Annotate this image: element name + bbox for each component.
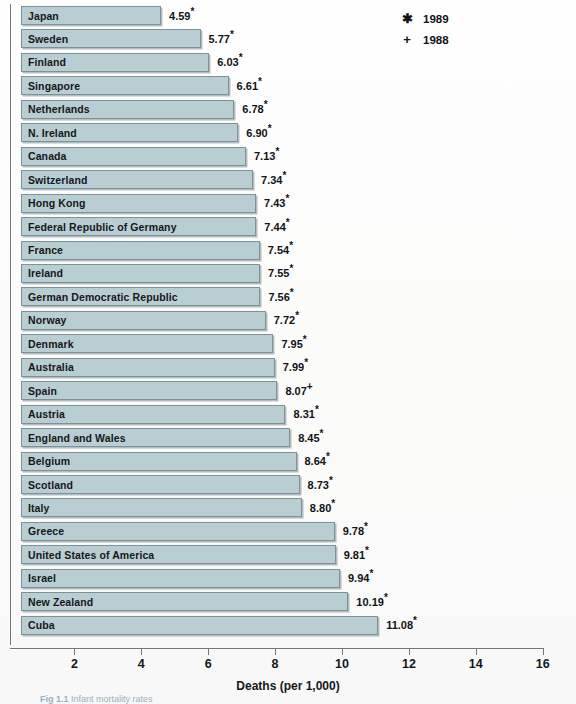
x-axis-line [10, 648, 544, 649]
x-axis-title: Deaths (per 1,000) [0, 679, 576, 693]
bar-row: Denmark7.95* [0, 334, 576, 353]
bar[interactable] [21, 475, 300, 494]
year-marker: * [264, 100, 268, 111]
bar[interactable] [21, 264, 260, 283]
bar[interactable] [21, 498, 302, 517]
year-marker: * [289, 240, 293, 251]
bar[interactable] [21, 428, 290, 447]
year-marker: * [369, 569, 373, 580]
x-axis-tick [208, 648, 209, 655]
bar[interactable] [21, 592, 348, 611]
year-marker: * [304, 358, 308, 369]
bar-value-label: 6.03* [217, 56, 242, 68]
year-marker: + [307, 381, 313, 392]
bar[interactable] [21, 29, 201, 48]
bar-value-label: 9.94* [348, 572, 373, 584]
bar-value-label: 7.43* [264, 197, 289, 209]
x-axis-tick [543, 648, 544, 655]
bar[interactable] [21, 123, 238, 142]
bar-row: Singapore6.61* [0, 76, 576, 95]
bar-value-label: 6.61* [237, 80, 262, 92]
bar-value-label: 6.90* [246, 127, 271, 139]
bar[interactable] [21, 147, 246, 166]
bar-value-label: 4.59* [169, 10, 194, 22]
year-marker: * [320, 428, 324, 439]
year-marker: * [286, 217, 290, 228]
bar-row: Israel9.94* [0, 569, 576, 588]
year-marker: * [282, 170, 286, 181]
bar-value-label: 5.77* [209, 33, 234, 45]
year-marker: * [364, 522, 368, 533]
x-axis-tick-label: 6 [205, 657, 212, 671]
bar-value-label: 9.81* [344, 549, 369, 561]
bar-value-label: 7.56* [268, 291, 293, 303]
bar[interactable] [21, 194, 256, 213]
x-axis-tick-label: 14 [469, 657, 483, 671]
bar[interactable] [21, 405, 285, 424]
bar-row: Greece9.78* [0, 522, 576, 541]
bar-row: Scotland8.73* [0, 475, 576, 494]
bar[interactable] [21, 53, 209, 72]
year-marker: * [285, 193, 289, 204]
bar-value-label: 7.54* [268, 244, 293, 256]
legend-symbol-icon: ✱ [398, 11, 416, 26]
bar[interactable] [21, 100, 234, 119]
bar[interactable] [21, 545, 336, 564]
year-marker: * [315, 404, 319, 415]
x-axis-tick [342, 648, 343, 655]
year-marker: * [331, 498, 335, 509]
bar-value-label: 8.73* [308, 479, 333, 491]
year-marker: * [258, 76, 262, 87]
year-marker: * [329, 475, 333, 486]
year-marker: * [268, 123, 272, 134]
year-marker: * [295, 311, 299, 322]
x-axis-tick-label: 12 [402, 657, 416, 671]
x-axis-tick-label: 2 [71, 657, 78, 671]
bar-row: Ireland7.55* [0, 264, 576, 283]
bar-row: Australia7.99* [0, 358, 576, 377]
bar[interactable] [21, 381, 277, 400]
bar[interactable] [21, 616, 378, 635]
bar-row: France7.54* [0, 241, 576, 260]
bar[interactable] [21, 6, 161, 25]
bar[interactable] [21, 358, 275, 377]
bar-value-label: 8.45* [298, 432, 323, 444]
legend-item: ✱1989 [398, 8, 548, 29]
x-axis-tick [476, 648, 477, 655]
year-marker: * [230, 29, 234, 40]
bar-row: Austria8.31* [0, 405, 576, 424]
bar-value-label: 7.34* [261, 174, 286, 186]
bar-value-label: 11.08* [386, 619, 417, 631]
bar-value-label: 7.44* [264, 221, 289, 233]
bar-row: Switzerland7.34* [0, 170, 576, 189]
legend-symbol-icon: + [398, 32, 416, 47]
bar-value-label: 7.55* [268, 267, 293, 279]
legend-label: 1989 [423, 13, 449, 25]
bar[interactable] [21, 217, 256, 236]
bar-row: N. Ireland6.90* [0, 123, 576, 142]
bar-row: Netherlands6.78* [0, 100, 576, 119]
bar[interactable] [21, 241, 260, 260]
bar[interactable] [21, 287, 260, 306]
bar[interactable] [21, 76, 229, 95]
year-marker: * [365, 545, 369, 556]
bar[interactable] [21, 522, 335, 541]
bar-value-label: 7.99* [283, 361, 308, 373]
bar-row: Federal Republic of Germany7.44* [0, 217, 576, 236]
bar[interactable] [21, 334, 273, 353]
x-axis-tick-label: 8 [272, 657, 279, 671]
bar[interactable] [21, 569, 340, 588]
bar[interactable] [21, 170, 253, 189]
x-axis-tick [141, 648, 142, 655]
bar-value-label: 8.64* [305, 455, 330, 467]
bar[interactable] [21, 452, 297, 471]
year-marker: * [290, 287, 294, 298]
bar[interactable] [21, 311, 266, 330]
bar-value-label: 7.13* [254, 150, 279, 162]
x-axis-tick-label: 4 [138, 657, 145, 671]
figure-number: Fig 1.1 [40, 694, 69, 704]
year-marker: * [303, 334, 307, 345]
x-axis-tick-label: 10 [335, 657, 349, 671]
bar-row: New Zealand10.19* [0, 592, 576, 611]
bar-value-label: 9.78* [343, 525, 368, 537]
